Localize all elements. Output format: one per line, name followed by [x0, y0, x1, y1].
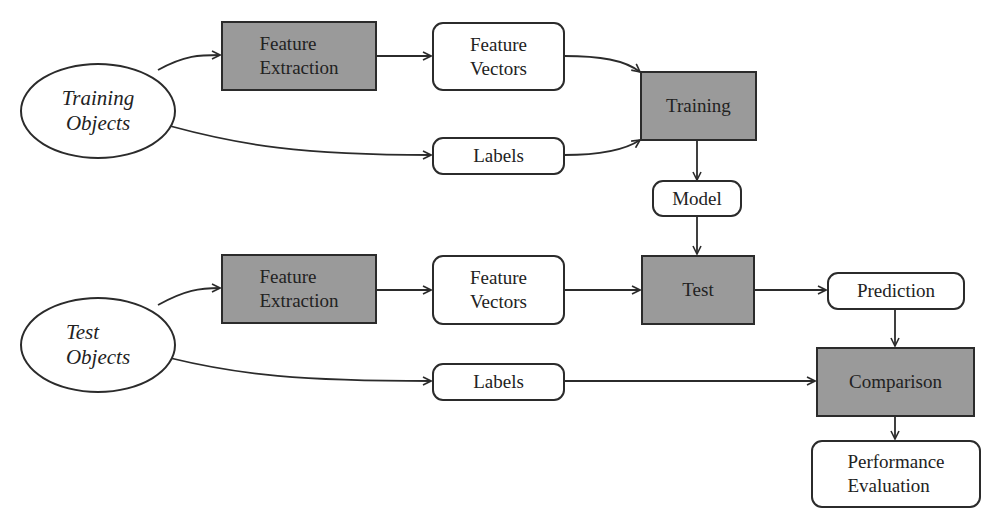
comparison-label: Comparison: [849, 370, 942, 394]
performance-evaluation-node: Performance Evaluation: [811, 440, 981, 508]
edge-labels-to-training: [564, 140, 640, 155]
feature-vectors-test-node: Feature Vectors: [432, 255, 565, 325]
feature-extraction-train-label: Feature Extraction: [259, 32, 338, 80]
pipeline-diagram: Training Objects Test Objects Feature Ex…: [0, 0, 999, 530]
model-label: Model: [672, 187, 722, 211]
labels-train-label: Labels: [473, 144, 524, 168]
feature-extraction-test-label: Feature Extraction: [259, 265, 338, 313]
labels-test-label: Labels: [473, 370, 524, 394]
training-node: Training: [640, 71, 757, 141]
feature-extraction-train-node: Feature Extraction: [221, 21, 377, 91]
feature-vectors-train-label: Feature Vectors: [470, 33, 527, 81]
training-objects-node: Training Objects: [20, 63, 176, 159]
training-label: Training: [666, 94, 731, 118]
feature-vectors-test-label: Feature Vectors: [470, 266, 527, 314]
test-node: Test: [641, 255, 755, 325]
feature-vectors-train-node: Feature Vectors: [432, 22, 565, 91]
edge-feature-vectors-to-training: [564, 56, 640, 72]
edge-test-objects-to-feature-extraction: [158, 288, 220, 305]
test-objects-label: Test Objects: [66, 320, 130, 370]
comparison-node: Comparison: [816, 347, 975, 417]
feature-extraction-test-node: Feature Extraction: [221, 254, 377, 324]
performance-evaluation-label: Performance Evaluation: [847, 450, 944, 498]
test-label: Test: [682, 278, 713, 302]
labels-test-node: Labels: [432, 363, 565, 401]
training-objects-label: Training Objects: [62, 86, 134, 136]
test-objects-node: Test Objects: [20, 297, 176, 393]
prediction-label: Prediction: [857, 279, 935, 303]
edge-training-objects-to-labels: [170, 126, 431, 155]
edge-training-objects-to-feature-extraction: [158, 55, 220, 70]
model-node: Model: [652, 180, 742, 217]
edge-test-objects-to-labels: [170, 358, 431, 381]
prediction-node: Prediction: [827, 272, 965, 310]
labels-train-node: Labels: [432, 137, 565, 175]
